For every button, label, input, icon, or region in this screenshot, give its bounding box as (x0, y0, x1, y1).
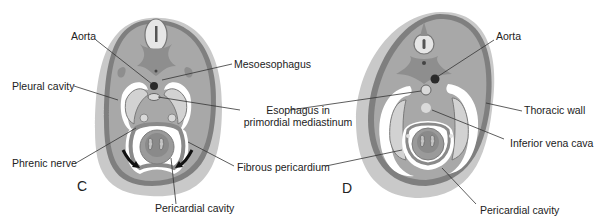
label-thoracic-wall: Thoracic wall (524, 104, 585, 116)
label-pleural-cavity: Pleural cavity (12, 80, 74, 92)
label-phrenic-nerve: Phrenic nerve (12, 157, 77, 169)
label-aorta-d: Aorta (496, 30, 521, 42)
panel-c-embryo-section (95, 18, 222, 197)
label-fibrous-pericardium: Fibrous pericardium (237, 161, 330, 173)
label-esophagus-line1: Esophagus in (232, 104, 364, 116)
label-esophagus-mediastinum: Esophagus in primordial mediastinum (232, 104, 364, 128)
label-pericardial-cavity-d: Pericardial cavity (480, 204, 559, 216)
panel-letter-d: D (342, 180, 352, 196)
panel-letter-c: C (77, 178, 87, 194)
label-inferior-vena-cava: Inferior vena cava (510, 137, 593, 149)
panel-d-embryo-section (356, 12, 494, 198)
label-mesoesophagus: Mesoesophagus (234, 58, 311, 70)
label-esophagus-line2: primordial mediastinum (232, 116, 364, 128)
label-aorta-c: Aorta (71, 30, 96, 42)
label-pericardial-cavity-c: Pericardial cavity (155, 202, 234, 214)
